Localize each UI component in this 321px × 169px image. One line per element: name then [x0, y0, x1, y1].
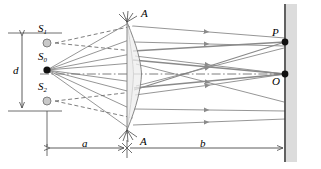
ray-bundle-incident [47, 24, 133, 127]
biprism-curved-face [127, 22, 142, 130]
label-s2: S2 [38, 81, 47, 94]
label-dimension-a: a [82, 138, 88, 149]
label-s0: S0 [38, 51, 47, 64]
label-s1: S1 [38, 23, 47, 36]
screen-point-p [282, 39, 289, 46]
screen-shadow [286, 4, 297, 162]
apex-bottom-hatch [119, 130, 137, 142]
label-point-p: P [272, 27, 279, 38]
label-apex-bottom: A [140, 136, 147, 147]
optics-ray-diagram: S1 S0 S2 d a b A A P O [0, 0, 321, 169]
label-apex-top: A [141, 8, 148, 19]
apex-top-hatch [119, 11, 137, 22]
virtual-source-point-s2 [43, 97, 51, 105]
label-point-o: O [272, 76, 280, 87]
label-dimension-d: d [13, 65, 19, 76]
label-dimension-b: b [200, 138, 206, 149]
source-point-s0 [43, 66, 50, 73]
screen-point-o [282, 71, 289, 78]
ray-bundle-upper-refracted [133, 26, 285, 102]
virtual-source-point-s1 [43, 39, 51, 47]
